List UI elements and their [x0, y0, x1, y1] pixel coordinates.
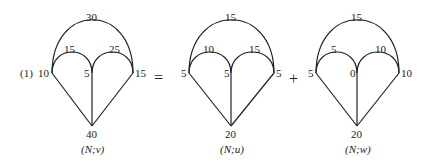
right-arc-label: 15	[249, 43, 261, 55]
graph-nv: (1) 30 15 25 10 5 15 40 (N;v)	[20, 11, 147, 156]
top-arc-label: 30	[86, 11, 98, 23]
right-bottom-edge	[231, 73, 274, 126]
bottom-node-label: 20	[225, 128, 237, 140]
plus-sign: +	[289, 70, 298, 87]
middle-node-label: 0	[350, 67, 356, 79]
right-node-label: 5	[276, 67, 282, 79]
bottom-node-label: 20	[351, 128, 363, 140]
right-node-label: 15	[135, 67, 147, 79]
left-node-label: 5	[181, 67, 187, 79]
prefix-label: (1)	[20, 67, 33, 80]
equals-sign: =	[154, 69, 163, 86]
right-bottom-edge	[92, 73, 133, 126]
right-arc-label: 25	[109, 43, 121, 55]
right-node-label: 10	[401, 67, 413, 79]
graph-nw: 15 5 10 5 0 10 20 (N;w)	[308, 11, 413, 156]
left-bottom-edge	[52, 73, 92, 126]
top-arc-label: 15	[225, 11, 237, 23]
bottom-node-label: 40	[86, 128, 98, 140]
diagram-canvas: (1) 30 15 25 10 5 15 40 (N;v) = 15 10 15…	[0, 0, 433, 163]
right-arc-edge	[357, 52, 399, 73]
left-bottom-edge	[316, 73, 357, 126]
top-arc-label: 15	[351, 11, 363, 23]
graph-nu: 15 10 15 5 5 5 20 (N;u)	[181, 11, 282, 156]
left-node-label: 10	[38, 67, 50, 79]
graph-caption: (N;w)	[345, 143, 371, 156]
left-arc-label: 10	[203, 43, 215, 55]
middle-node-label: 5	[224, 67, 230, 79]
top-arc-edge	[189, 20, 274, 73]
right-arc-edge	[92, 52, 133, 73]
right-arc-edge	[231, 52, 274, 73]
graph-caption: (N;v)	[81, 143, 105, 156]
left-node-label: 5	[308, 67, 314, 79]
right-arc-label: 10	[375, 43, 387, 55]
top-arc-edge	[316, 20, 399, 73]
right-bottom-edge	[357, 73, 399, 126]
left-arc-label: 5	[331, 43, 337, 55]
left-bottom-edge	[189, 73, 231, 126]
left-arc-label: 15	[64, 43, 76, 55]
middle-node-label: 5	[84, 67, 90, 79]
graph-caption: (N;u)	[220, 143, 244, 156]
